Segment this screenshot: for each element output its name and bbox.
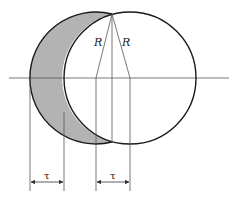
radius-label-right: R (121, 36, 130, 49)
diagram-canvas: R R τ τ (0, 0, 232, 201)
offset-label-left: τ (44, 170, 50, 181)
offset-label-right: τ (110, 170, 116, 181)
radius-label-left: R (93, 36, 102, 49)
overlapping-circles-diagram: R R τ τ (0, 0, 232, 201)
